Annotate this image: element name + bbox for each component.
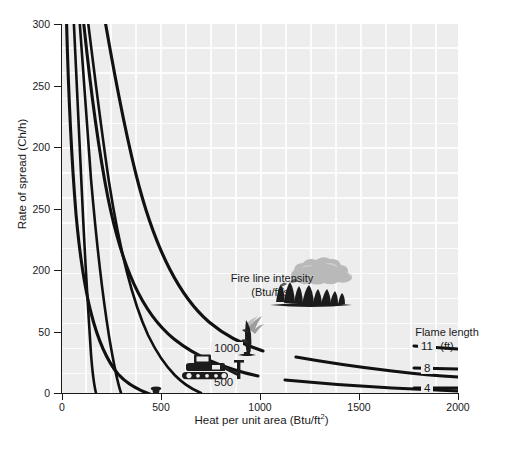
y-tick-label-100: 200 xyxy=(6,265,50,276)
fire-line-intensity-annotation: Fire line intensity (Btu/ft/s) xyxy=(212,272,332,299)
fire-line-intensity-line1: Fire line intensity xyxy=(212,272,332,286)
torching-tree-icon xyxy=(234,312,270,358)
y-tick-200 xyxy=(54,147,61,148)
y-tick-50 xyxy=(54,332,61,333)
y-axis-line xyxy=(61,24,62,394)
x-tick-1000 xyxy=(260,393,261,400)
x-tick-2000 xyxy=(458,393,459,400)
y-tick-label-0: 0 xyxy=(6,388,50,399)
y-axis-title: Rate of spread (Ch/h) xyxy=(16,89,28,259)
x-tick-0 xyxy=(62,393,63,400)
y-tick-150 xyxy=(54,209,61,210)
y-tick-100 xyxy=(54,270,61,271)
x-tick-500 xyxy=(161,393,162,400)
x-tick-label-2000: 2000 xyxy=(428,402,488,413)
x-tick-1500 xyxy=(359,393,360,400)
flame-length-annotation: Flame length (ft) xyxy=(398,326,496,353)
y-tick-300 xyxy=(54,24,61,25)
fire-line-intensity-line2: (Btu/ft/s) xyxy=(212,286,332,300)
flame-label-8: 8 xyxy=(421,362,433,374)
y-tick-label-250: 250 xyxy=(6,81,50,92)
y-tick-0 xyxy=(54,393,61,394)
x-axis-title-main: Heat per unit area (Btu/ft xyxy=(195,414,321,426)
firefighter-icon xyxy=(142,382,186,393)
flame-label-4: 4 xyxy=(421,382,433,393)
y-tick-label-300: 300 xyxy=(6,19,50,30)
flame-length-line1: Flame length xyxy=(398,326,496,340)
x-tick-label-500: 500 xyxy=(131,402,191,413)
curve-1000-left xyxy=(106,24,263,351)
y-tick-label-50: 50 xyxy=(6,327,50,338)
flame-length-line2: (ft) xyxy=(398,340,496,354)
curve-500-left xyxy=(84,24,258,376)
y-tick-label-200: 200 xyxy=(6,142,50,153)
fire-behavior-characteristics-chart: 1000 500 100 11 8 4 xyxy=(0,0,506,449)
x-tick-label-1500: 1500 xyxy=(329,402,389,413)
x-tick-label-1000: 1000 xyxy=(230,402,290,413)
x-tick-label-0: 0 xyxy=(32,402,92,413)
x-axis-title-close: ) xyxy=(325,414,329,426)
x-axis-title: Heat per unit area (Btu/ft2) xyxy=(129,412,394,426)
y-tick-label-150: 250 xyxy=(6,204,50,215)
y-tick-250 xyxy=(54,86,61,87)
